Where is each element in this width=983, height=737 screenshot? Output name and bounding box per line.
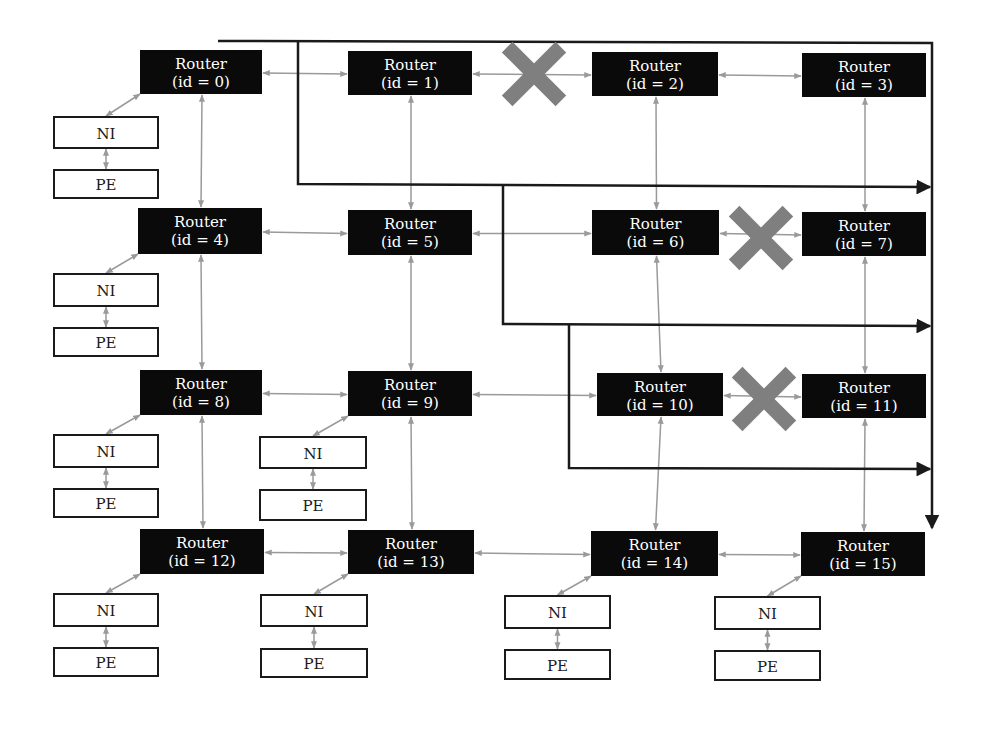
router-id-label: (id = 11) [830,397,897,415]
router-9: Router(id = 9) [348,371,472,416]
ni-label: NI [96,282,115,300]
router-id-label: (id = 14) [621,554,688,572]
router-label: Router [175,375,228,393]
router-label: Router [384,56,437,74]
router-label: Router [838,217,891,235]
router-label: Router [838,379,891,397]
router-label: Router [838,58,891,76]
link-2-3 [719,75,801,76]
router-label: Router [384,376,437,394]
endpoint-router-12: NIPE [54,574,158,676]
link-8-9 [263,394,347,395]
router-label: Router [837,537,890,555]
mesh-links [201,73,865,555]
link-9-13 [411,417,412,529]
ni-label: NI [304,603,323,621]
link-4-5 [263,232,347,234]
link-9-10 [473,395,596,396]
link-6-10 [657,256,662,372]
endpoint-router-15: NIPE [715,576,820,680]
router-label: Router [385,535,438,553]
endpoint-router-14: NIPE [505,576,610,679]
ni-label: NI [303,445,322,463]
router-label: Router [175,55,228,73]
router-ni-link [106,415,140,434]
ni-label: NI [96,125,115,143]
router-id-label: (id = 3) [835,76,893,94]
pe-label: PE [95,654,116,672]
router-7: Router(id = 7) [802,212,926,256]
pe-label: PE [95,334,116,352]
router-id-label: (id = 6) [627,233,685,251]
router-id-label: (id = 7) [835,235,893,253]
router-ni-link [313,416,348,436]
endpoint-router-9: NIPE [260,416,366,520]
router-15: Router(id = 15) [801,532,925,576]
router-id-label: (id = 8) [172,393,230,411]
router-11: Router(id = 11) [802,374,926,418]
router-ni-link [106,574,140,593]
router-14: Router(id = 14) [591,531,718,576]
router-id-label: (id = 0) [172,73,230,91]
router-label: Router [174,213,227,231]
router-label: Router [176,534,229,552]
router-label: Router [628,536,681,554]
router-2: Router(id = 2) [592,52,718,96]
link-0-1 [263,73,347,74]
endpoint-router-13: NIPE [261,574,367,677]
router-6: Router(id = 6) [592,210,719,255]
router-label: Router [384,215,437,233]
pe-label: PE [547,657,568,675]
link-2-6 [656,97,657,209]
router-id-label: (id = 10) [626,396,693,414]
router-id-label: (id = 12) [168,552,235,570]
link-10-14 [656,417,662,530]
router-label: Router [629,215,682,233]
router-id-label: (id = 15) [829,555,896,573]
router-id-label: (id = 4) [171,231,229,249]
router-id-label: (id = 13) [377,553,444,571]
endpoint-router-0: NIPE [54,94,158,198]
link-0-4 [201,95,202,207]
fault-x-icon-10-11 [732,367,796,431]
link-13-14 [475,553,590,555]
router-ni-link [314,574,348,594]
link-8-12 [202,416,203,528]
endpoint-router-4: NIPE [54,254,158,356]
ni-label: NI [96,602,115,620]
router-ni-link [768,576,802,596]
pe-label: PE [303,655,324,673]
router-12: Router(id = 12) [140,529,264,574]
router-3: Router(id = 3) [802,53,926,97]
endpoint-router-8: NIPE [54,415,158,517]
router-id-label: (id = 9) [381,394,439,412]
pe-label: PE [757,658,778,676]
link-12-13 [265,553,347,554]
router-5: Router(id = 5) [348,210,472,255]
router-label: Router [634,378,687,396]
noc-mesh-diagram: Router(id = 0)Router(id = 1)Router(id = … [0,0,983,737]
routers: Router(id = 0)Router(id = 1)Router(id = … [138,50,926,576]
fault-x-icon-6-7 [729,206,793,270]
router-id-label: (id = 2) [626,75,684,93]
router-ni-link [106,94,140,116]
link-11-15 [864,419,865,531]
router-13: Router(id = 13) [348,530,474,574]
pe-label: PE [95,495,116,513]
pe-label: PE [95,176,116,194]
ni-label: NI [96,443,115,461]
router-ni-link [558,576,592,595]
pe-label: PE [302,497,323,515]
link-4-8 [201,255,202,369]
ni-label: NI [548,604,567,622]
router-id-label: (id = 5) [381,233,439,251]
router-4: Router(id = 4) [138,208,262,254]
link-14-15 [719,555,800,556]
router-8: Router(id = 8) [140,370,262,415]
ni-label: NI [758,605,777,623]
router-0: Router(id = 0) [140,50,262,94]
router-label: Router [629,57,682,75]
router-id-label: (id = 1) [381,74,439,92]
router-10: Router(id = 10) [597,373,723,416]
router-ni-link [106,254,138,273]
